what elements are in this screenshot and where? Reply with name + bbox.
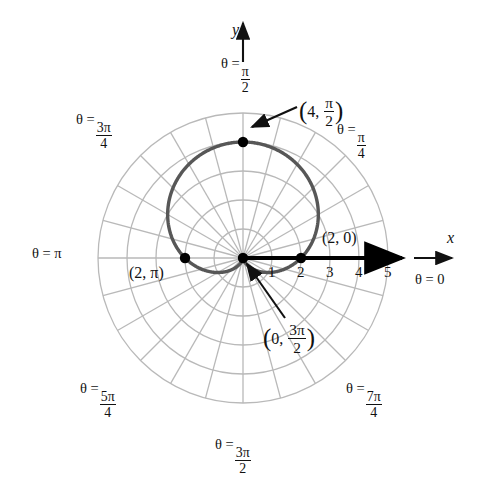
grid-spoke-5 <box>243 118 281 258</box>
fraction: π2 <box>241 65 250 96</box>
radial-tick-1: 1 <box>268 265 276 280</box>
y-axis-label: y <box>232 22 239 38</box>
radial-tick-3: 3 <box>326 265 334 280</box>
angle-label-5pi-over-4: θ =5π4 <box>80 381 117 420</box>
radial-tick-5: 5 <box>384 265 392 280</box>
fraction: 3π4 <box>96 121 112 152</box>
theta-equals-text: θ = <box>215 436 234 452</box>
angle-label-3pi-over-4: θ =3π4 <box>76 112 113 151</box>
fraction-denominator: 2 <box>238 461 247 476</box>
fraction-denominator: 4 <box>357 146 366 161</box>
fraction-denominator: 2 <box>292 339 302 355</box>
fraction-numerator: 3π <box>288 322 305 339</box>
grid-spoke-16 <box>171 258 244 384</box>
leader-line-top-point <box>252 107 297 127</box>
radial-tick-2: 2 <box>297 265 305 280</box>
theta-equals-text: θ = <box>221 55 240 71</box>
angle-label-7pi-over-4: θ =7π4 <box>346 381 383 420</box>
fraction: π2 <box>324 95 334 129</box>
fraction: 3π2 <box>288 322 305 356</box>
fraction-numerator: 3π <box>235 446 251 462</box>
fraction-numerator: 7π <box>366 390 382 406</box>
x-axis-label: x <box>447 230 454 246</box>
point-label-2-0: (2, 0) <box>322 230 357 246</box>
close-paren: ) <box>335 104 343 119</box>
comma: , <box>315 104 323 120</box>
polar-figure: θ =π2 θ =π4 θ =3π4 θ = π θ =5π4 θ =3π2 θ… <box>0 0 486 485</box>
grid-spoke-9 <box>140 155 243 258</box>
marked-point-2 <box>180 253 190 263</box>
fraction-numerator: 5π <box>100 390 116 406</box>
grid-spoke-17 <box>205 258 243 398</box>
fraction-denominator: 2 <box>324 112 334 128</box>
theta-equals-text: θ = <box>76 111 95 127</box>
angle-label-pi: θ = π <box>32 246 62 261</box>
fraction: 3π2 <box>235 446 251 477</box>
fraction-numerator: 3π <box>96 121 112 137</box>
theta-equals-text: θ = <box>346 380 365 396</box>
marked-point-3 <box>238 253 248 263</box>
point-radius: 0 <box>271 331 279 347</box>
grid-spoke-22 <box>243 258 369 331</box>
grid-spoke-2 <box>243 186 369 259</box>
angle-label-3pi-over-2: θ =3π2 <box>215 437 252 476</box>
radial-tick-4: 4 <box>355 265 363 280</box>
fraction: 7π4 <box>366 390 382 421</box>
marked-point-0 <box>238 137 248 147</box>
comma: , <box>279 331 287 347</box>
fraction: π4 <box>357 131 366 162</box>
open-paren: ( <box>263 331 271 346</box>
grid-spoke-7 <box>205 118 243 258</box>
fraction: 5π4 <box>100 390 116 421</box>
fraction-denominator: 4 <box>99 136 108 151</box>
marked-point-1 <box>296 253 306 263</box>
grid-spoke-13 <box>103 258 243 296</box>
point-label-0-3pi-over-2: (0, 3π2) <box>263 322 315 356</box>
theta-equals-text: θ = <box>80 380 99 396</box>
fraction-numerator: π <box>241 65 250 81</box>
open-paren: ( <box>299 104 307 119</box>
fraction-denominator: 2 <box>241 80 250 95</box>
angle-label-pi-over-2: θ =π2 <box>221 56 251 95</box>
fraction-denominator: 4 <box>369 405 378 420</box>
close-paren: ) <box>307 331 315 346</box>
point-radius: 4 <box>307 104 315 120</box>
fraction-numerator: π <box>324 95 334 112</box>
point-label-4-pi-over-2: (4, π2) <box>299 95 343 129</box>
point-label-2-pi: (2, π) <box>129 265 164 281</box>
fraction-denominator: 4 <box>103 405 112 420</box>
fraction-numerator: π <box>357 131 366 147</box>
grid-spoke-10 <box>117 186 243 259</box>
angle-label-theta-zero: θ = 0 <box>415 272 445 287</box>
